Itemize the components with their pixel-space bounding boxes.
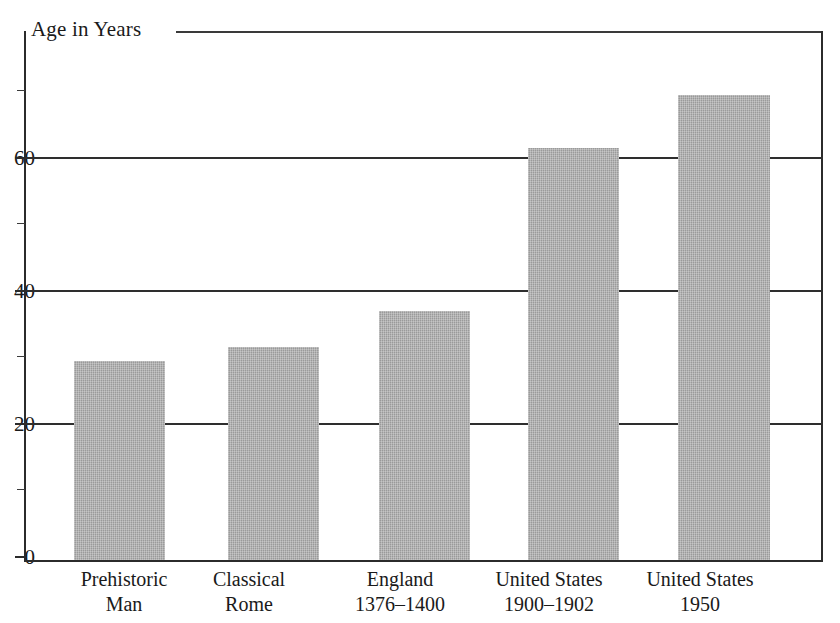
category-line-1: United States xyxy=(495,568,602,590)
right-frame-line xyxy=(821,31,823,562)
y-tick-minor-10 xyxy=(17,489,25,490)
y-tick-minor-30 xyxy=(17,356,25,357)
x-axis-line xyxy=(24,560,823,562)
category-line-1: United States xyxy=(646,568,753,590)
bar-chart-figure: Age in Years 60 40 20 0 Prehistori xyxy=(0,0,840,623)
x-category-label-united-states-1950: United States 1950 xyxy=(600,567,800,617)
bar-prehistoric-man xyxy=(74,361,165,560)
y-tick-minor-70 xyxy=(17,90,25,91)
plot-area xyxy=(24,31,823,562)
bar-classical-rome xyxy=(228,347,319,560)
bar-united-states-1900-1902 xyxy=(528,148,619,560)
y-tick-20 xyxy=(15,423,26,425)
y-axis-line xyxy=(24,31,26,562)
bar-united-states-1950 xyxy=(678,95,770,560)
bar-england-1376-1400 xyxy=(379,311,470,560)
y-tick-0 xyxy=(15,556,26,558)
category-line-1: England xyxy=(367,568,434,590)
y-tick-60 xyxy=(15,157,26,159)
y-tick-40 xyxy=(15,290,26,292)
y-tick-minor-50 xyxy=(17,223,25,224)
top-frame-line xyxy=(176,31,821,33)
category-line-1: Classical xyxy=(213,568,285,590)
category-line-2: 1950 xyxy=(600,592,800,617)
